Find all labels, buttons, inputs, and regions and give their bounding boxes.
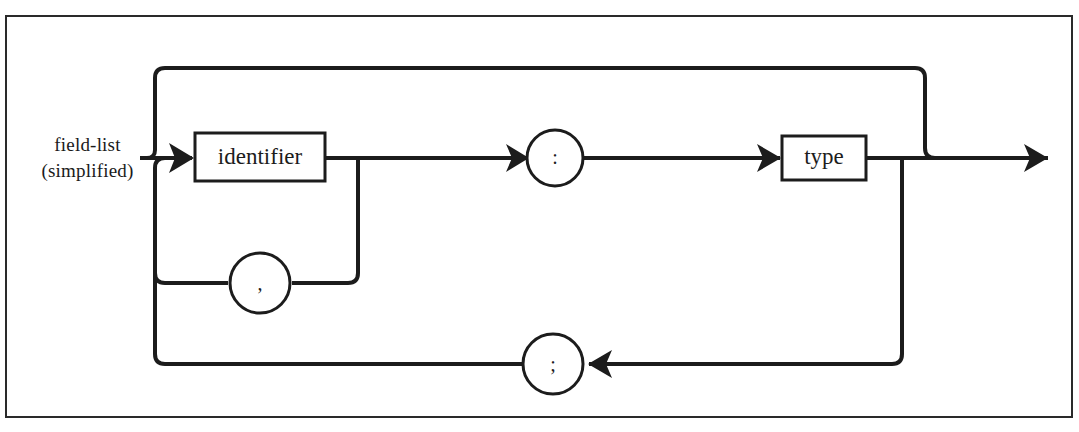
railroad-diagram-canvas: identifier type : , ;: [0, 0, 1079, 432]
node-colon-label: :: [552, 146, 558, 168]
node-identifier-label: identifier: [218, 144, 303, 169]
node-comma-label: ,: [258, 272, 263, 294]
path-semicolon-loop-right: [589, 160, 902, 364]
node-semicolon-label: ;: [550, 353, 556, 375]
node-type-label: type: [804, 144, 844, 169]
syntax-diagram-page: field-list (simplified) identifier type: [0, 0, 1079, 432]
path-semicolon-loop-left: [155, 170, 523, 364]
